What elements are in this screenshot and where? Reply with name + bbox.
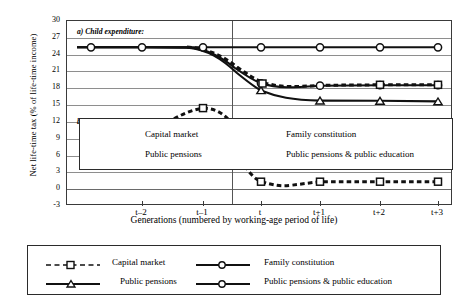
- y-tick--3: -3: [38, 201, 60, 209]
- y-tick-30: 30: [38, 16, 60, 24]
- caption-family-constitution: Family constitution: [286, 129, 356, 139]
- caption-capital-market: Capital market: [145, 129, 198, 139]
- y-tick-3: 3: [38, 167, 60, 175]
- legend-sample-public-pensions-and-education: [196, 276, 250, 294]
- y-tick-24: 24: [38, 50, 60, 58]
- figure-root: Net life-time tax (% of life-time income…: [0, 0, 468, 305]
- y-tick-21: 21: [38, 66, 60, 74]
- y-tick-15: 15: [38, 100, 60, 108]
- y-tick-12: 12: [38, 117, 60, 125]
- legend-label-capital-market: Capital market: [112, 257, 165, 267]
- y-tick-18: 18: [38, 83, 60, 91]
- legend-label-public-pensions: Public pensions: [120, 276, 177, 286]
- circle-marker: [219, 281, 225, 287]
- caption-public-pensions: Public pensions: [145, 149, 202, 159]
- legend-sample-family-constitution: [196, 257, 250, 275]
- legend-label-public-pensions-and-education: Public pensions & public education: [264, 276, 392, 286]
- curve-capital-market-panel-a: [187, 47, 438, 87]
- series-curves: [67, 21, 453, 206]
- circle-marker: [219, 262, 225, 268]
- caption-public-pensions-and-education: Public pensions & public education: [286, 149, 414, 159]
- legend: Capital market Family constitution Publi…: [27, 245, 441, 295]
- y-tick-9: 9: [38, 134, 60, 142]
- y-tick-27: 27: [38, 33, 60, 41]
- square-marker: [67, 262, 74, 269]
- x-axis-title: Generations (numbered by working-age per…: [0, 215, 468, 225]
- x-tickmark-t-2: [142, 201, 143, 206]
- x-tickmark-t-1: [203, 201, 204, 206]
- x-tickmark-t+1: [320, 201, 321, 206]
- plot-area: a) Child expenditure: b) Public pensions…: [66, 20, 452, 205]
- y-tick-0: 0: [38, 184, 60, 192]
- y-tick-6: 6: [38, 151, 60, 159]
- y-axis-title: Net life-time tax (% of life-time income…: [28, 10, 38, 200]
- legend-sample-public-pensions: [46, 276, 100, 294]
- x-tickmark-t: [261, 201, 262, 206]
- x-tickmark-t+3: [438, 201, 439, 206]
- x-tickmark-t+2: [380, 201, 381, 206]
- legend-label-family-constitution: Family constitution: [264, 257, 334, 267]
- caption-box: Capital market Family constitution Publi…: [79, 118, 453, 170]
- legend-sample-capital-market: [46, 257, 100, 275]
